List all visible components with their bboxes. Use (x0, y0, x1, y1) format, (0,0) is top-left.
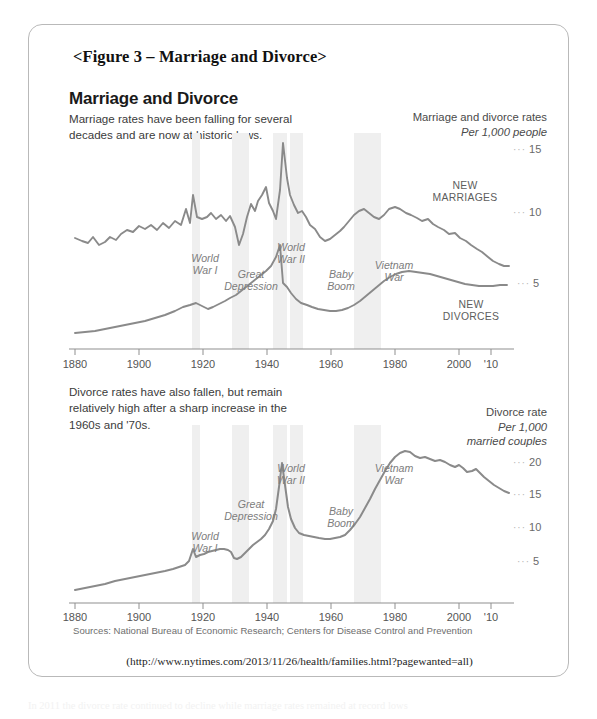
bottom-chart-xticks (75, 603, 491, 609)
series-label-new-marriages: NEW MARRIAGES (425, 180, 505, 204)
top-annotation-world-war-ii: World War II (265, 241, 317, 266)
top-ytick-10: ··· 10 (513, 206, 541, 218)
bottom-legend-line1: Divorce rate (369, 405, 547, 420)
bottom-xtick-1880: 1880 (55, 611, 95, 623)
top-chart-xticks (75, 349, 491, 355)
top-xtick-1880: 1880 (55, 358, 95, 370)
top-legend-line1: Marriage and divorce rates (359, 110, 547, 125)
bottom-xtick-2010: '10 (477, 611, 505, 623)
bottom-annotation-world-war-i: World War I (180, 530, 230, 555)
series-label-new-divorces: NEW DIVORCES (431, 299, 511, 323)
bottom-annotation-great-depression: Great Depression (215, 498, 287, 523)
top-ytick-5: ··· 5 (517, 277, 539, 289)
bottom-ytick-5: ··· 5 (517, 555, 539, 567)
bottom-ytick-20: ··· 20 (513, 456, 541, 468)
figure-caption: <Figure 3 – Marriage and Divorce> (73, 47, 327, 67)
page-root: <Figure 3 – Marriage and Divorce> Marria… (0, 0, 597, 719)
bottom-xtick-1960: 1960 (311, 611, 351, 623)
top-xtick-1960: 1960 (311, 358, 351, 370)
ytick-dots-icon: ··· (513, 522, 526, 533)
figure-card: <Figure 3 – Marriage and Divorce> Marria… (28, 24, 569, 677)
top-xtick-1920: 1920 (183, 358, 223, 370)
ytick-dots-icon: ··· (513, 144, 526, 155)
bottom-ytick-10: ··· 10 (513, 521, 541, 533)
chart-title: Marriage and Divorce (69, 89, 238, 109)
bottom-xtick-1900: 1900 (119, 611, 159, 623)
top-xtick-1940: 1940 (247, 358, 287, 370)
top-xtick-2000: 2000 (439, 358, 479, 370)
bottom-annotation-baby-boom: Baby Boom (318, 505, 364, 530)
top-annotation-vietnam-war: Vietnam War (366, 259, 422, 284)
sources-note: Sources: National Bureau of Economic Res… (73, 625, 533, 636)
cutoff-text: In 2011 the divorce rate continued to de… (28, 700, 569, 714)
bottom-chart-svg (69, 425, 514, 615)
bottom-xtick-2000: 2000 (439, 611, 479, 623)
ytick-dots-icon: ··· (513, 489, 526, 500)
top-xtick-1900: 1900 (119, 358, 159, 370)
ytick-dots-icon: ··· (513, 457, 526, 468)
bottom-xtick-1940: 1940 (247, 611, 287, 623)
ytick-dots-icon: ··· (517, 278, 530, 289)
top-ytick-15: ··· 15 (513, 143, 541, 155)
ytick-dots-icon: ··· (517, 556, 530, 567)
source-url: (http://www.nytimes.com/2013/11/26/healt… (29, 655, 570, 667)
bottom-xtick-1980: 1980 (375, 611, 415, 623)
bottom-chart-plot (69, 425, 514, 615)
bottom-xtick-1920: 1920 (183, 611, 223, 623)
top-annotation-baby-boom: Baby Boom (318, 268, 364, 293)
top-annotation-great-depression: Great Depression (215, 268, 287, 293)
bottom-ytick-15: ··· 15 (513, 488, 541, 500)
bottom-annotation-vietnam-war: Vietnam War (366, 462, 422, 487)
bottom-annotation-world-war-ii: World War II (265, 462, 317, 487)
ytick-dots-icon: ··· (513, 207, 526, 218)
top-xtick-1980: 1980 (375, 358, 415, 370)
top-xtick-2010: '10 (477, 358, 505, 370)
